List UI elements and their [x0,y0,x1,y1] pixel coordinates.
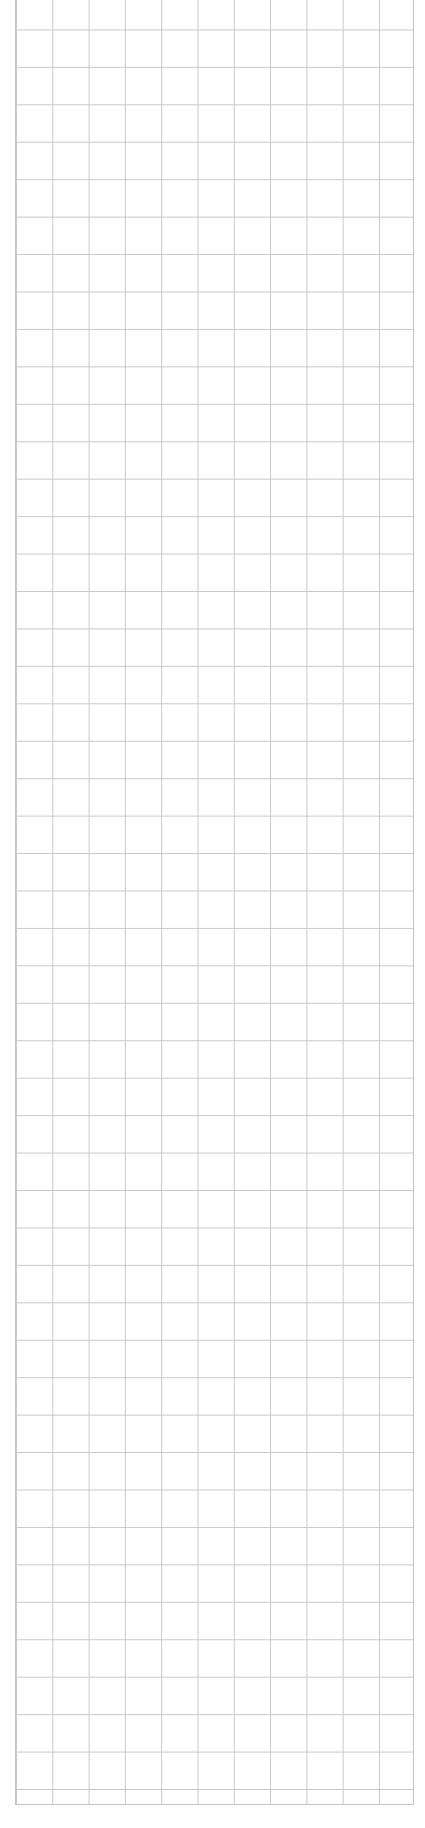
graph-paper-grid [15,0,414,1805]
